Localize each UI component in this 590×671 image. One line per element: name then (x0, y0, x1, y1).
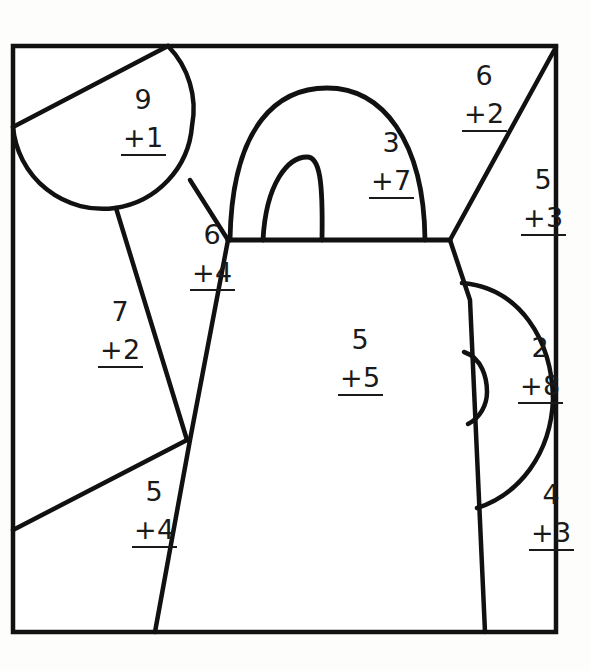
region-9-plus-1[interactable]: 9 +1 (121, 86, 166, 156)
addend-top: 5 (132, 478, 177, 505)
addend-bottom: +2 (98, 336, 143, 368)
addend-top: 9 (121, 86, 166, 113)
region-6-plus-2[interactable]: 6 +2 (462, 62, 507, 132)
addend-top: 5 (338, 326, 383, 353)
region-5-plus-5[interactable]: 5 +5 (338, 326, 383, 396)
addend-bottom: +8 (518, 372, 563, 404)
region-7-plus-2[interactable]: 7 +2 (98, 298, 143, 368)
addend-bottom: +2 (462, 100, 507, 132)
region-5-plus-4[interactable]: 5 +4 (132, 478, 177, 548)
addend-bottom: +3 (529, 519, 574, 551)
worksheet-page: 9 +1 3 +7 6 +2 5 +3 6 +4 7 +2 (0, 0, 590, 671)
region-5-plus-3[interactable]: 5 +3 (521, 166, 566, 236)
addend-top: 3 (369, 129, 414, 156)
region-2-plus-8[interactable]: 2 +8 (518, 334, 563, 404)
addend-top: 4 (529, 481, 574, 508)
addend-bottom: +1 (121, 124, 166, 156)
region-3-plus-7[interactable]: 3 +7 (369, 129, 414, 199)
addend-top: 6 (462, 62, 507, 89)
addend-top: 6 (190, 221, 235, 248)
picture-border (13, 46, 556, 632)
addend-bottom: +4 (190, 259, 235, 291)
addend-bottom: +4 (132, 516, 177, 548)
addend-bottom: +7 (369, 167, 414, 199)
addend-top: 2 (518, 334, 563, 361)
addend-top: 7 (98, 298, 143, 325)
region-4-plus-3[interactable]: 4 +3 (529, 481, 574, 551)
addend-top: 5 (521, 166, 566, 193)
region-6-plus-4[interactable]: 6 +4 (190, 221, 235, 291)
addend-bottom: +3 (521, 204, 566, 236)
addend-bottom: +5 (338, 364, 383, 396)
